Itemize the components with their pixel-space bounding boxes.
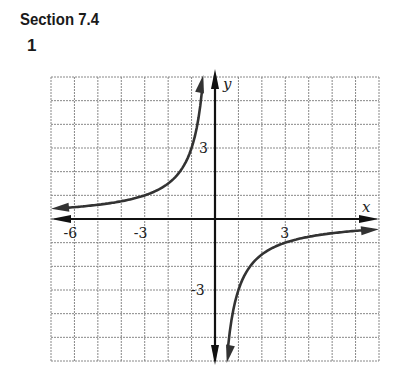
x-axis-label: x (362, 198, 371, 216)
curve-right-branch (228, 230, 372, 349)
y-axis-arrow-up (211, 69, 219, 89)
y-axis-label: y (222, 75, 232, 93)
x-axis-arrow-left (51, 215, 71, 223)
y-axis-arrow-down (211, 345, 219, 365)
curve-left-branch (58, 90, 202, 208)
curve-arrow-icon (361, 225, 380, 236)
hyperbola-graph: -6-333-3xy (0, 0, 406, 392)
y-tick-label: -3 (191, 282, 205, 298)
y-tick-label: 3 (199, 140, 208, 156)
x-tick-label: -3 (134, 225, 148, 241)
tick-labels: -6-333-3xy (63, 75, 371, 298)
x-tick-label: -6 (63, 225, 77, 241)
curve-arrow-icon (51, 203, 70, 214)
x-tick-label: 3 (280, 225, 289, 241)
axes (51, 69, 379, 365)
x-axis-arrow-right (359, 215, 379, 223)
